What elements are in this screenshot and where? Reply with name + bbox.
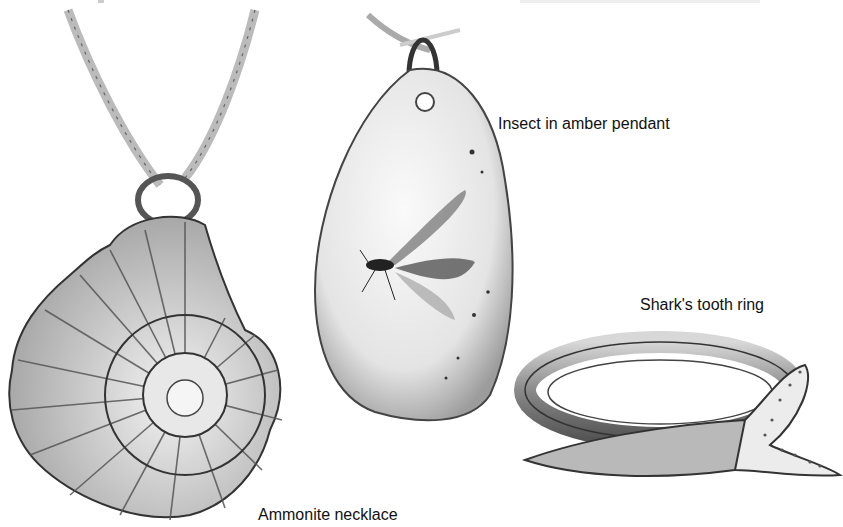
ammonite-necklace-label: Ammonite necklace: [258, 506, 398, 524]
ammonite-shell: [9, 217, 282, 520]
shark-tooth-ring: [525, 342, 840, 476]
ammonite-cord: [68, 10, 255, 185]
shark-tooth-ring-label: Shark's tooth ring: [640, 296, 764, 314]
amber-pendant-label: Insect in amber pendant: [498, 115, 670, 133]
amber-pendant: [315, 15, 513, 420]
jewelry-illustration: [0, 0, 843, 527]
